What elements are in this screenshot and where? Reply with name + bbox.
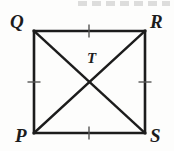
vertex-label-R: R <box>150 12 163 31</box>
vertex-label-S: S <box>150 126 161 145</box>
diagonals <box>34 31 145 133</box>
geometry-figure: Q R S P T <box>0 0 174 151</box>
interior-point-label-T: T <box>87 51 96 66</box>
vertex-label-P: P <box>15 126 27 145</box>
vertex-label-Q: Q <box>10 12 24 31</box>
